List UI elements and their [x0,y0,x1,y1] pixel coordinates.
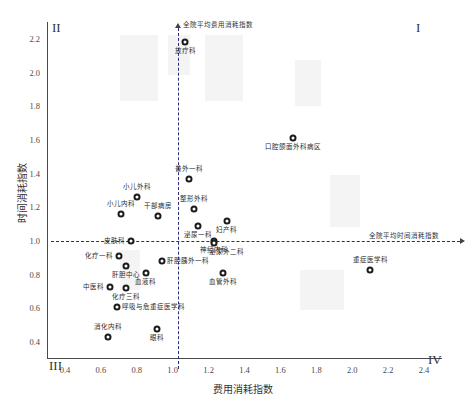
data-point-label: 口腔颌面外科病区 [265,143,321,151]
data-point-label: 消化内科 [94,323,122,331]
y-tick-label: 0.4 [18,337,40,347]
y-tick-label: 1.4 [18,169,40,179]
data-point[interactable] [114,303,121,310]
data-point[interactable] [158,258,165,265]
y-axis-line [47,22,48,359]
x-tick-label: 0.4 [52,365,78,375]
data-point-label: 眼科 [150,334,164,342]
data-point[interactable] [210,239,217,246]
data-point[interactable] [219,270,226,277]
data-point[interactable] [153,325,160,332]
y-tick-label: 1.2 [18,202,40,212]
data-point[interactable] [223,217,230,224]
vertical-reference-label: 全院平均费用消耗指数 [183,19,253,29]
data-point[interactable] [194,222,201,229]
y-tick-label: 0.8 [18,270,40,280]
y-tick-label: 2.0 [18,68,40,78]
x-tick-label: 0.8 [124,365,150,375]
data-point[interactable] [367,266,374,273]
data-point-label: 重症医学科 [353,256,388,264]
y-tick-label: 1.6 [18,135,40,145]
data-point-label: 血液科 [135,278,156,286]
data-point-label: 泌尿外二科 [209,248,244,256]
x-tick-label: 0.6 [88,365,114,375]
data-point-label: 妇产科 [216,226,237,234]
x-tick-label: 1.8 [303,365,329,375]
data-point-label: 皮肤科 [104,237,125,245]
x-tick-label: 2.0 [339,365,365,375]
y-tick-label: 0.6 [18,303,40,313]
data-point[interactable] [105,334,112,341]
x-axis-line [47,358,442,359]
data-point[interactable] [128,238,135,245]
y-tick-label: 2.2 [18,34,40,44]
data-point-label: 泌尿一科 [184,231,212,239]
data-point-label: 化疗三科 [112,293,140,301]
data-point-label: 呼吸与危重症医学科 [122,303,185,311]
vertical-reference-arrow-icon [175,23,181,28]
vertical-reference-line [178,28,179,369]
data-point[interactable] [117,211,124,218]
data-point-label: 小儿内科 [107,200,135,208]
data-point-label: 普外一科 [175,165,203,173]
x-tick-label: 1.2 [196,365,222,375]
data-point-label: 中医科 [83,283,104,291]
data-point-label: 整形外科 [180,195,208,203]
x-tick-label: 1.6 [267,365,293,375]
data-point[interactable] [289,135,296,142]
data-point-label: 肝胆胰外一科 [167,257,209,265]
data-point[interactable] [142,270,149,277]
plot-area [47,22,442,359]
horizontal-reference-arrow-icon [460,238,465,244]
data-point[interactable] [182,39,189,46]
x-tick-label: 2.4 [411,365,437,375]
data-point-label: 放疗科 [175,47,196,55]
data-point[interactable] [191,206,198,213]
x-tick-label: 2.2 [375,365,401,375]
data-point[interactable] [123,285,130,292]
data-point-label: 干部病房 [144,202,172,210]
data-point[interactable] [155,212,162,219]
quadrant-label-i: I [416,20,420,36]
x-tick-label: 1.0 [160,365,186,375]
x-axis-title: 费用消耗指数 [213,381,273,396]
data-point-label: 血管外科 [209,278,237,286]
data-point[interactable] [123,263,130,270]
data-point-label: 小儿外科 [123,183,151,191]
data-point[interactable] [106,283,113,290]
scatter-chart: II I III IV 费用消耗指数 时间消耗指数 0.40.60.81.01.… [0,0,465,412]
y-tick-label: 1.8 [18,101,40,111]
horizontal-reference-label: 全院平均时间消耗指数 [369,230,439,240]
data-point-label: 化疗一科 [85,252,113,260]
data-point[interactable] [185,175,192,182]
data-point[interactable] [115,253,122,260]
y-tick-label: 1.0 [18,236,40,246]
quadrant-label-ii: II [52,20,61,36]
x-tick-label: 1.4 [232,365,258,375]
